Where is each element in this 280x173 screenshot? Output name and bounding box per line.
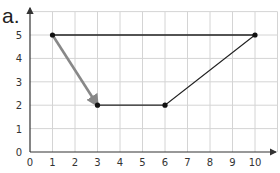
x-tick-label: 5 [139, 157, 145, 168]
x-tick-label: 3 [94, 157, 100, 168]
x-tick-label: 7 [184, 157, 190, 168]
coordinate-plot: 012345678910012345 [0, 0, 280, 173]
x-tick-label: 9 [229, 157, 235, 168]
x-tick-label: 4 [117, 157, 123, 168]
y-tick-label: 0 [16, 147, 22, 158]
data-point [95, 103, 100, 108]
x-tick-label: 8 [207, 157, 213, 168]
y-tick-label: 4 [16, 53, 22, 64]
data-point [162, 103, 167, 108]
data-point [50, 32, 55, 37]
x-tick-label: 2 [72, 157, 78, 168]
y-tick-label: 1 [16, 124, 22, 135]
x-tick-label: 6 [162, 157, 168, 168]
black-path-line [53, 35, 256, 105]
x-tick-label: 10 [249, 157, 262, 168]
x-tick-label: 0 [27, 157, 33, 168]
data-point [252, 32, 257, 37]
y-tick-label: 5 [16, 30, 22, 41]
y-tick-label: 2 [16, 100, 22, 111]
x-tick-label: 1 [49, 157, 55, 168]
y-tick-label: 3 [16, 77, 22, 88]
